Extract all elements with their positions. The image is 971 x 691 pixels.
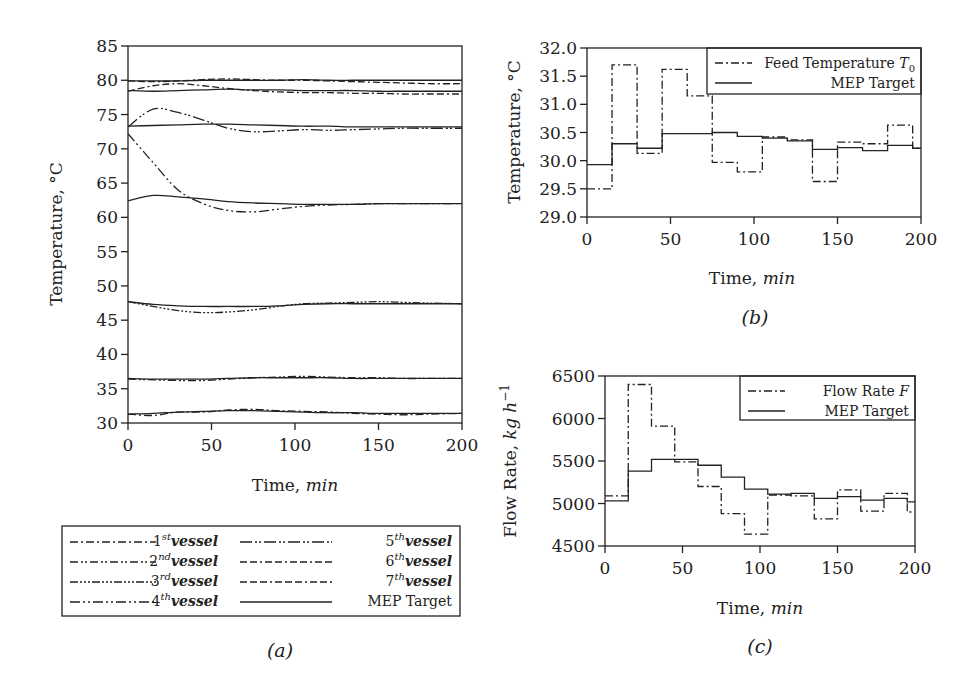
legend-ordinal: 3 bbox=[151, 573, 160, 589]
legend-label: 6thvessel bbox=[386, 551, 452, 569]
legend-label: Flow Rate F bbox=[823, 383, 911, 399]
chart-c-x-axis: 050100150200 bbox=[600, 546, 932, 578]
caption-c: (c) bbox=[747, 635, 772, 657]
series-line bbox=[128, 124, 462, 127]
legend-ordinal-suffix: th bbox=[395, 551, 405, 562]
y-tick-label: 30 bbox=[96, 413, 118, 433]
chart-c-y-axis: 45005000550060006500 bbox=[552, 366, 605, 556]
x-tick-label: 200 bbox=[905, 229, 937, 249]
y-tick-label: 45 bbox=[96, 310, 118, 330]
legend-label: MEP Target bbox=[830, 75, 915, 91]
legend-ordinal-suffix: th bbox=[395, 571, 405, 582]
chart-c-flow-rate: 45005000550060006500 050100150200 Flow R… bbox=[498, 366, 931, 657]
legend-label: 4thvessel bbox=[152, 591, 218, 609]
y-tick-label: 60 bbox=[96, 207, 118, 227]
legend-text: vessel bbox=[405, 533, 452, 549]
series-line bbox=[605, 459, 915, 502]
y-tick-label: 6000 bbox=[552, 409, 595, 429]
legend-text: vessel bbox=[171, 533, 218, 549]
legend-ordinal: 5 bbox=[386, 533, 395, 549]
x-tick-label: 100 bbox=[744, 558, 776, 578]
chart-c-legend: Flow Rate FMEP Target bbox=[740, 376, 915, 420]
legend-label: MEP Target bbox=[367, 593, 452, 609]
x-label-time: Time, bbox=[717, 598, 771, 618]
legend-text: Flow Rate bbox=[823, 383, 900, 399]
legend-ordinal-suffix: th bbox=[161, 591, 171, 602]
chart-a-x-label: Time, min bbox=[252, 475, 338, 495]
x-tick-label: 50 bbox=[672, 558, 694, 578]
x-label-unit: min bbox=[306, 475, 339, 495]
x-tick-label: 100 bbox=[279, 435, 311, 455]
x-tick-label: 50 bbox=[201, 435, 223, 455]
y-tick-label: 31.5 bbox=[539, 66, 577, 86]
legend-label: 2ndvessel bbox=[149, 551, 218, 569]
legend-text: vessel bbox=[171, 573, 218, 589]
legend-text: vessel bbox=[171, 553, 218, 569]
legend-text: vessel bbox=[405, 553, 452, 569]
y-label-unit: kg h bbox=[500, 402, 520, 440]
legend-label: 3rdvessel bbox=[151, 571, 218, 589]
caption-a: (a) bbox=[267, 639, 293, 661]
y-label-text: Flow Rate, bbox=[500, 439, 520, 537]
y-tick-label: 65 bbox=[96, 173, 118, 193]
chart-b-y-label: Temperature, °C bbox=[504, 60, 524, 204]
y-tick-label: 32.0 bbox=[539, 38, 577, 58]
x-tick-label: 50 bbox=[660, 229, 682, 249]
legend-ordinal: 2 bbox=[149, 553, 158, 569]
legend-symbol: F bbox=[898, 383, 910, 399]
series-line bbox=[128, 108, 462, 132]
legend-text: Feed Temperature bbox=[764, 55, 899, 71]
y-tick-label: 40 bbox=[96, 344, 118, 364]
chart-a-x-axis: 050100150200 bbox=[123, 423, 479, 455]
y-tick-label: 55 bbox=[96, 242, 118, 262]
chart-b-x-axis: 050100150200 bbox=[582, 217, 938, 249]
y-tick-label: 6500 bbox=[552, 366, 595, 386]
y-tick-label: 75 bbox=[96, 105, 118, 125]
legend-ordinal: 1 bbox=[153, 533, 162, 549]
y-tick-label: 5000 bbox=[552, 494, 595, 514]
chart-a-plot-frame bbox=[128, 46, 462, 423]
x-label-time: Time, bbox=[709, 268, 763, 288]
legend-ordinal-suffix: th bbox=[395, 531, 405, 542]
x-tick-label: 200 bbox=[446, 435, 478, 455]
legend-text: MEP Target bbox=[830, 75, 915, 91]
x-tick-label: 100 bbox=[738, 229, 770, 249]
chart-b-x-label: Time, min bbox=[709, 268, 795, 288]
x-tick-label: 0 bbox=[600, 558, 611, 578]
legend-ordinal: 4 bbox=[152, 593, 161, 609]
x-tick-label: 0 bbox=[123, 435, 134, 455]
y-tick-label: 29.0 bbox=[539, 207, 577, 227]
legend-label: 1stvessel bbox=[153, 531, 218, 549]
x-tick-label: 150 bbox=[821, 229, 853, 249]
x-tick-label: 150 bbox=[821, 558, 853, 578]
chart-a-legend: 1stvessel2ndvessel3rdvessel4thvessel5thv… bbox=[62, 526, 460, 616]
y-label-exponent: −1 bbox=[498, 384, 512, 402]
legend-ordinal: 6 bbox=[386, 553, 395, 569]
y-tick-label: 80 bbox=[96, 70, 118, 90]
y-tick-label: 50 bbox=[96, 276, 118, 296]
y-tick-label: 85 bbox=[96, 36, 118, 56]
legend-text: MEP Target bbox=[824, 403, 909, 419]
chart-a-y-axis: 303540455055606570758085 bbox=[96, 36, 128, 433]
y-tick-label: 70 bbox=[96, 139, 118, 159]
chart-c-x-label: Time, min bbox=[717, 598, 803, 618]
x-tick-label: 0 bbox=[582, 229, 593, 249]
legend-label: 5thvessel bbox=[386, 531, 452, 549]
series-line bbox=[128, 134, 462, 212]
legend-text: vessel bbox=[405, 573, 452, 589]
x-label-unit: min bbox=[763, 268, 796, 288]
series-line bbox=[128, 84, 462, 94]
x-label-unit: min bbox=[771, 598, 804, 618]
legend-text: MEP Target bbox=[367, 593, 452, 609]
chart-a-series bbox=[128, 79, 462, 416]
chart-a-temperature-vessels: 303540455055606570758085 050100150200 Te… bbox=[46, 36, 478, 661]
series-line bbox=[128, 80, 462, 81]
chart-b-legend: Feed Temperature T0MEP Target bbox=[707, 48, 921, 94]
chart-b-feed-temperature: 29.029.530.030.531.031.532.0 05010015020… bbox=[504, 38, 937, 328]
legend-text: vessel bbox=[171, 593, 218, 609]
y-tick-label: 29.5 bbox=[539, 179, 577, 199]
y-tick-label: 4500 bbox=[552, 536, 595, 556]
legend-label: Feed Temperature T0 bbox=[764, 55, 915, 74]
x-label-time: Time, bbox=[252, 475, 306, 495]
x-tick-label: 200 bbox=[899, 558, 931, 578]
